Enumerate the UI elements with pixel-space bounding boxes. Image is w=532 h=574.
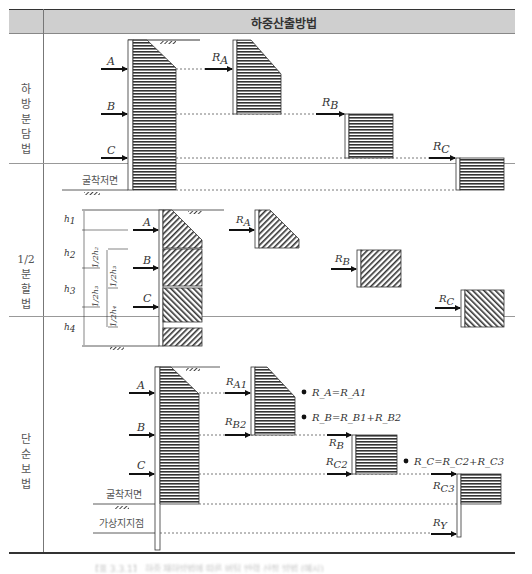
reaction-block-2 xyxy=(356,435,397,474)
force-label-b: B xyxy=(142,254,151,267)
retaining-wall xyxy=(155,367,160,550)
pressure-segment-4 xyxy=(163,328,202,346)
reaction-block-c xyxy=(460,158,504,190)
reaction-block-a xyxy=(237,40,281,114)
reaction-label-y: RY xyxy=(432,517,448,531)
diagram-frame: 하중산출방법 하 방 분 담 법 1/2 분 할 법 단 순 보 법 xyxy=(0,0,532,574)
pressure-segment-3 xyxy=(163,288,202,322)
soil-hatch-icon xyxy=(115,506,129,509)
equation-rb: R_B=R_B1+R_B2 xyxy=(311,412,401,424)
force-label-a: A xyxy=(106,55,115,68)
bullet-icon xyxy=(404,459,409,464)
soil-hatch-icon xyxy=(186,368,200,371)
retaining-wall xyxy=(159,210,163,346)
figure-caption: 【표 3.3.1】 하중 재하방법에 따른 버팀 반력 산정 방법 (예시) xyxy=(90,562,440,572)
reaction-block-1 xyxy=(255,367,295,435)
soil-hatch-icon xyxy=(188,211,202,214)
soil-hatch-icon xyxy=(160,41,176,44)
row1-diagram: 굴착저면 A B C RA RB xyxy=(62,40,504,195)
height-label-h2: h2 xyxy=(64,248,76,260)
force-label-c: C xyxy=(107,144,116,157)
reaction-label-b: RB xyxy=(334,253,350,267)
reaction-label-c3: RC3 xyxy=(432,480,455,494)
earth-pressure-diagram xyxy=(160,367,199,504)
reaction-block-a xyxy=(259,210,299,248)
half-height-label: 1/2h₃ xyxy=(109,266,118,287)
reaction-label-a1: RA1 xyxy=(225,376,247,390)
equation-rc: R_C=R_C2+R_C3 xyxy=(413,456,504,468)
row3-diagram: 굴착저면 가상지지점 A B C RA1 RB2 xyxy=(93,367,504,550)
earth-pressure-diagram xyxy=(133,40,176,190)
reaction-label-b2: RB2 xyxy=(224,416,246,430)
force-label-c: C xyxy=(137,459,146,472)
height-label-h1: h1 xyxy=(64,214,76,226)
reaction-block-3 xyxy=(461,474,501,504)
retaining-wall xyxy=(128,40,133,190)
reaction-label-c: RC xyxy=(438,293,455,307)
soil-hatch-icon xyxy=(110,347,124,350)
diagram-canvas: 굴착저면 A B C RA RB xyxy=(0,0,532,574)
reaction-label-c2: RC2 xyxy=(325,456,348,470)
reaction-label-a: RA xyxy=(235,214,251,228)
half-height-label: 1/2h₄ xyxy=(109,306,118,327)
force-label-b: B xyxy=(106,100,115,113)
force-label-a: A xyxy=(142,216,151,229)
force-label-b: B xyxy=(136,421,145,434)
equation-ra: R_A=R_A1 xyxy=(311,387,366,399)
reaction-label-b: RB xyxy=(328,437,344,451)
pressure-segment-1 xyxy=(163,210,202,248)
virtual-support-label: 가상지지점 xyxy=(99,518,144,529)
pressure-segment-2 xyxy=(163,249,202,286)
ground-label: 굴착저면 xyxy=(106,489,142,500)
force-label-c: C xyxy=(143,292,152,305)
reaction-block-b xyxy=(349,114,393,158)
height-label-h4: h4 xyxy=(64,322,76,334)
soil-hatch-icon xyxy=(84,192,100,195)
bullet-icon xyxy=(302,390,307,395)
force-label-a: A xyxy=(136,379,145,392)
row2-diagram: h1 h2 h3 h4 1/2h₂ 1/2h₃ 1/2h₃ 1/2h₄ A B … xyxy=(64,210,504,350)
reaction-label-b: RB xyxy=(321,96,338,112)
reaction-block-b xyxy=(361,250,401,287)
reaction-label-a: RA xyxy=(211,51,228,67)
bullet-icon xyxy=(302,415,307,420)
half-height-label: 1/2h₃ xyxy=(91,286,100,307)
height-label-h3: h3 xyxy=(64,284,76,296)
half-height-label: 1/2h₂ xyxy=(91,247,100,268)
reaction-label-c: RC xyxy=(432,140,450,156)
ground-label: 굴착저면 xyxy=(82,175,118,186)
reaction-block-c xyxy=(465,290,504,327)
